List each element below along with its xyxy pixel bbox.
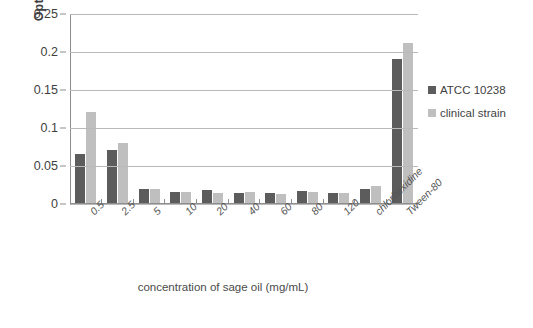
plot-area (70, 14, 418, 204)
y-tick-mark (60, 204, 66, 205)
legend-swatch-icon (428, 86, 436, 94)
gridline (70, 52, 418, 53)
y-tick-label: 0 (51, 197, 58, 211)
bar-group (70, 14, 102, 203)
x-axis-category-labels: 0.52.551020406080120chlorhexidineTween-8… (70, 206, 418, 286)
gridline (70, 166, 418, 167)
bar (86, 112, 96, 203)
bar-group (102, 14, 134, 203)
legend-swatch-icon (428, 109, 436, 117)
bar-group (165, 14, 197, 203)
bar-chart-figure: Optical density 00.050.10.150.20.25 0.52… (0, 0, 533, 328)
bar-group (355, 14, 387, 203)
gridline (70, 14, 418, 15)
x-axis-title: concentration of sage oil (mg/mL) (118, 281, 328, 293)
gridline (70, 90, 418, 91)
legend-label: clinical strain (440, 107, 506, 119)
bar (107, 150, 117, 203)
legend-item[interactable]: ATCC 10238 (428, 84, 506, 96)
y-tick-mark (60, 14, 66, 15)
y-tick-label: 0.15 (34, 83, 58, 97)
legend-label: ATCC 10238 (440, 84, 506, 96)
chart-legend: ATCC 10238clinical strain (428, 84, 506, 130)
bar-group (323, 14, 355, 203)
y-tick-mark (60, 90, 66, 91)
y-tick-label: 0.2 (41, 45, 58, 59)
y-tick-label: 0.1 (41, 121, 58, 135)
gridline (70, 128, 418, 129)
y-tick-mark (60, 166, 66, 167)
x-category-label-text: 5 (149, 204, 163, 218)
y-tick-label: 0.05 (34, 159, 58, 173)
y-tick-mark (60, 52, 66, 53)
bar-group (133, 14, 165, 203)
bar-group (260, 14, 292, 203)
bar-groups (70, 14, 418, 203)
y-axis-labels: 00.050.10.150.20.25 (0, 14, 66, 204)
bar-group (228, 14, 260, 203)
bar-group (197, 14, 229, 203)
y-tick-mark (60, 128, 66, 129)
bar (118, 143, 128, 203)
y-tick-label: 0.25 (34, 7, 58, 21)
bar-group (291, 14, 323, 203)
legend-item[interactable]: clinical strain (428, 107, 506, 119)
bar (75, 154, 85, 203)
